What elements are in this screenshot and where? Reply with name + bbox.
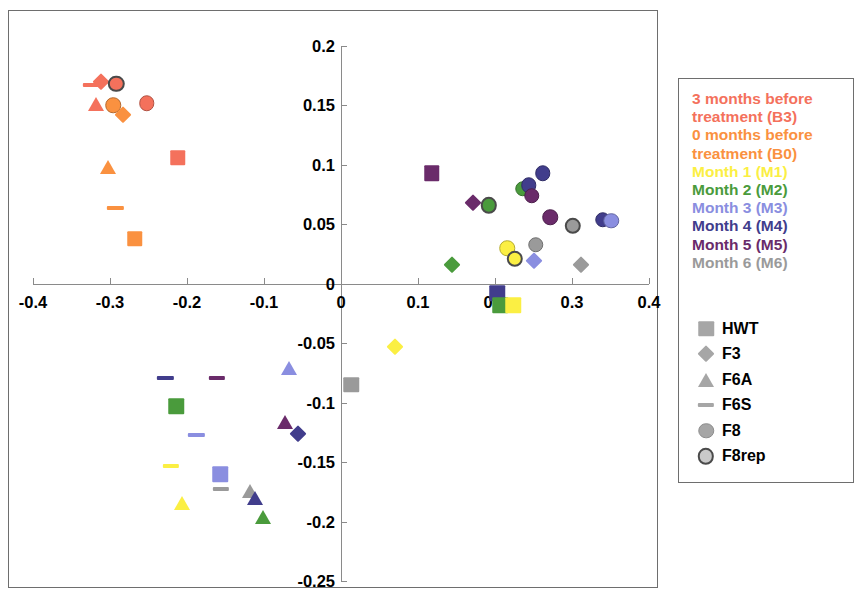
data-point — [481, 197, 497, 213]
legend-color-item-m5: Month 5 (M5) — [692, 236, 850, 254]
data-point — [107, 206, 123, 210]
data-point — [127, 231, 143, 247]
data-point — [157, 376, 173, 380]
data-point — [424, 165, 440, 181]
data-point — [88, 97, 104, 111]
y-tick — [341, 343, 347, 344]
legend-shape-label: F3 — [722, 345, 741, 363]
x-tick — [33, 278, 34, 284]
legend-color-groups: 3 months before treatment (B3)0 months b… — [692, 90, 850, 272]
marker-triangle — [698, 373, 714, 387]
y-tick — [341, 462, 347, 463]
legend-shape-groups: HWTF3F6AF6SF8F8rep — [693, 316, 853, 469]
x-tick-label: -0.1 — [250, 293, 278, 312]
data-point — [281, 361, 297, 375]
y-tick — [341, 522, 347, 523]
y-tick — [341, 224, 347, 225]
data-point — [209, 376, 225, 380]
data-point — [255, 510, 271, 524]
legend-swatch-triangle — [693, 369, 719, 391]
legend-shape-item-f6s: F6S — [693, 393, 853, 419]
legend-shape-label: HWT — [722, 320, 758, 338]
data-point — [213, 487, 229, 491]
legend-shape-label: F6A — [722, 371, 752, 389]
marker-square — [698, 321, 714, 337]
legend-shape-label: F8 — [722, 422, 741, 440]
x-tick — [495, 278, 496, 284]
data-point — [170, 150, 186, 166]
legend-swatch-ring — [693, 445, 719, 467]
y-tick — [341, 581, 347, 582]
data-point — [100, 160, 116, 174]
y-tick-label: -0.1 — [287, 393, 335, 412]
legend-color-item-m4: Month 4 (M4) — [692, 217, 850, 235]
y-tick — [341, 46, 347, 47]
legend-color-item-m2: Month 2 (M2) — [692, 181, 850, 199]
legend-shape-item-f8: F8 — [693, 418, 853, 444]
data-point — [528, 237, 544, 253]
legend-shape-item-f8rep: F8rep — [693, 444, 853, 470]
y-tick-label: 0.2 — [287, 37, 335, 56]
data-point — [535, 165, 551, 181]
x-tick — [418, 278, 419, 284]
plot-area: -0.4-0.3-0.2-0.100.10.20.30.4 0.20.150.1… — [9, 11, 657, 587]
legend-shape-label: F6S — [722, 396, 751, 414]
data-point — [443, 256, 461, 274]
x-tick-label: -0.2 — [173, 293, 201, 312]
x-tick-label: 0 — [336, 293, 345, 312]
y-tick-label: 0.05 — [287, 215, 335, 234]
x-tick — [110, 278, 111, 284]
y-tick — [341, 284, 347, 285]
y-tick-label: -0.05 — [287, 334, 335, 353]
data-point — [386, 338, 404, 356]
data-point — [543, 209, 559, 225]
x-tick-label: 0.1 — [407, 293, 430, 312]
data-point — [572, 256, 590, 274]
legend-shape-item-f6a: F6A — [693, 367, 853, 393]
data-point — [247, 491, 263, 505]
data-point — [506, 297, 522, 313]
x-tick — [572, 278, 573, 284]
legend-shape-item-f3: F3 — [693, 342, 853, 368]
y-tick-label: 0.1 — [287, 155, 335, 174]
legend-color-item-b3: 3 months before treatment (B3) — [692, 90, 850, 126]
x-tick — [649, 278, 650, 284]
data-point — [139, 95, 155, 111]
data-point — [188, 433, 204, 437]
y-axis-line — [341, 46, 342, 581]
data-point — [604, 213, 620, 229]
legend-swatch-diamond — [693, 343, 719, 365]
y-tick-label: -0.2 — [287, 512, 335, 531]
x-tick-label: -0.4 — [19, 293, 47, 312]
legend-swatch-square — [693, 318, 719, 340]
legend-shape-label: F8rep — [722, 447, 766, 465]
legend-color-item-m1: Month 1 (M1) — [692, 163, 850, 181]
data-point — [524, 188, 540, 204]
y-tick-label: 0 — [287, 274, 335, 293]
legend-color-item-b0: 0 months before treatment (B0) — [692, 126, 850, 162]
x-tick — [264, 278, 265, 284]
data-point — [212, 466, 228, 482]
y-tick-label: 0.15 — [287, 96, 335, 115]
legend-swatch-circle — [693, 420, 719, 442]
data-point — [525, 252, 543, 270]
data-point — [465, 194, 483, 212]
y-tick — [341, 165, 347, 166]
legend-color-item-m3: Month 3 (M3) — [692, 199, 850, 217]
legend-shape-item-hwt: HWT — [693, 316, 853, 342]
x-tick — [187, 278, 188, 284]
data-point — [565, 217, 581, 233]
legend-panel: 3 months before treatment (B3)0 months b… — [678, 78, 854, 483]
y-tick-label: -0.15 — [287, 453, 335, 472]
x-tick-label: 0.4 — [638, 293, 661, 312]
y-tick — [341, 105, 347, 106]
data-point — [507, 251, 523, 267]
marker-diamond — [697, 345, 715, 363]
data-point — [163, 464, 179, 468]
marker-dash — [698, 403, 714, 407]
marker-ring — [698, 448, 714, 464]
scatter-plot-panel: -0.4-0.3-0.2-0.100.10.20.30.4 0.20.150.1… — [8, 10, 658, 588]
x-tick-label: -0.3 — [96, 293, 124, 312]
data-point — [168, 398, 184, 414]
data-point — [108, 76, 124, 92]
